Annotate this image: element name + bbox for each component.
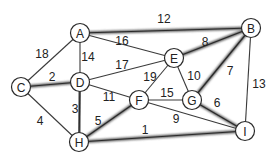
edge-weight-label: 16	[115, 34, 129, 48]
edge-weight-label: 15	[160, 86, 174, 100]
edges-layer	[21, 28, 251, 142]
edge-weight-label: 3	[72, 102, 79, 116]
edge-weight-label: 4	[37, 114, 44, 128]
node-h: H	[70, 133, 89, 152]
node-label: I	[243, 125, 246, 139]
node-label: B	[247, 22, 255, 36]
node-label: A	[76, 27, 84, 41]
node-e: E	[165, 49, 184, 68]
edge-weight-label: 8	[202, 35, 209, 49]
edge-weight-label: 13	[252, 77, 266, 91]
node-f: F	[130, 91, 149, 110]
node-label: D	[76, 76, 85, 90]
edge-weight-label: 19	[143, 70, 157, 84]
node-label: E	[170, 52, 178, 66]
edge-weight-label: 10	[187, 69, 201, 83]
edge-weight-label: 14	[81, 50, 95, 64]
node-g: G	[183, 91, 202, 110]
node-label: C	[17, 81, 26, 95]
edge-h-i	[79, 131, 245, 142]
node-i: I	[236, 122, 255, 141]
edge-weight-label: 1	[142, 123, 149, 137]
graph-canvas: 12181416241711381910713159561 ABCDEFGHI	[0, 0, 275, 161]
edge-weight-label: 11	[103, 90, 116, 104]
graph-diagram: 12181416241711381910713159561 ABCDEFGHI	[0, 0, 275, 161]
node-c: C	[12, 78, 31, 97]
node-label: G	[187, 94, 196, 108]
node-label: F	[135, 94, 142, 108]
node-a: A	[71, 24, 90, 43]
edge-weight-label: 9	[173, 112, 180, 126]
edge-weight-label: 12	[157, 12, 171, 26]
edge-weight-label: 6	[214, 96, 221, 110]
edge-weight-label: 7	[227, 64, 234, 78]
edge-weight-label: 17	[115, 58, 129, 72]
edge-a-b	[80, 28, 251, 33]
edge-f-h	[79, 100, 139, 142]
edge-weight-label: 18	[35, 47, 49, 61]
node-label: H	[75, 136, 84, 150]
edge-weight-label: 5	[95, 114, 102, 128]
node-d: D	[71, 73, 90, 92]
edge-b-i	[245, 28, 251, 131]
edge-weight-label: 2	[49, 70, 56, 84]
node-b: B	[242, 19, 261, 38]
edge-c-h	[21, 87, 79, 142]
